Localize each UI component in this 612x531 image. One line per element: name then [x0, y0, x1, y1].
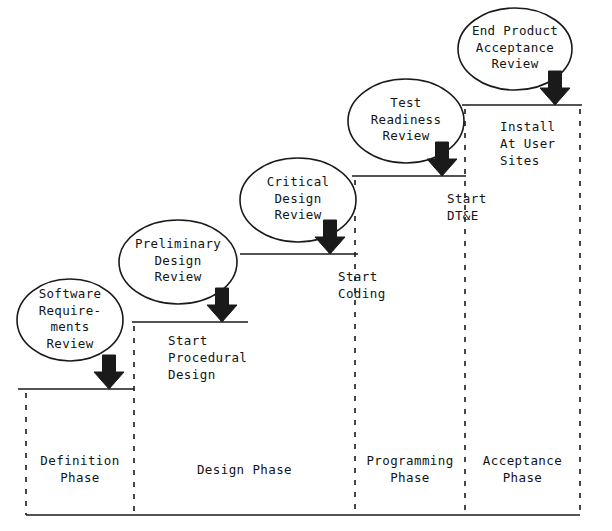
review-label-line: Review [17, 336, 123, 353]
milestone-label-line: Coding [338, 285, 386, 302]
milestone-label-install-at-user-sites: InstallAt UserSites [500, 118, 555, 169]
milestone-label-line: Start [338, 268, 386, 285]
phase-label-programming-phase: ProgrammingPhase [355, 452, 465, 486]
phase-label-definition-phase: DefinitionPhase [26, 452, 134, 486]
milestone-label-line: Design [168, 366, 247, 383]
waterfall-diagram: SoftwareRequire-mentsReviewPreliminaryDe… [0, 0, 612, 531]
phase-label-line: Phase [465, 469, 580, 486]
review-label-critical-design-review: CriticalDesignReview [240, 174, 356, 224]
phase-label-line: Acceptance [465, 452, 580, 469]
review-label-line: Readiness [348, 112, 464, 129]
review-label-line: Review [119, 269, 237, 286]
phase-label-acceptance-phase: AcceptancePhase [465, 452, 580, 486]
milestone-label-line: Start [447, 190, 487, 207]
phase-label-line: Definition [26, 452, 134, 469]
review-label-line: ments [17, 319, 123, 336]
milestone-label-line: At User [500, 135, 555, 152]
review-label-line: Design [240, 191, 356, 208]
milestone-label-start-procedural-design: StartProceduralDesign [168, 332, 247, 383]
review-label-line: Review [240, 207, 356, 224]
milestone-label-line: DT&E [447, 207, 487, 224]
review-label-line: Critical [240, 174, 356, 191]
milestone-label-line: Install [500, 118, 555, 135]
milestone-label-start-coding: StartCoding [338, 268, 386, 302]
milestone-label-start-dtande: StartDT&E [447, 190, 487, 224]
phase-label-line: Programming [355, 452, 465, 469]
phase-label-line: Phase [26, 469, 134, 486]
phase-label-line: Design Phase [134, 461, 355, 478]
phase-label-design-phase: Design Phase [134, 461, 355, 478]
review-label-line: Acceptance [458, 40, 572, 57]
review-label-test-readiness-review: TestReadinessReview [348, 95, 464, 145]
milestone-label-line: Procedural [168, 349, 247, 366]
review-label-line: Test [348, 95, 464, 112]
phase-label-line: Phase [355, 469, 465, 486]
down-arrow-step-definition [94, 355, 124, 389]
milestone-label-line: Start [168, 332, 247, 349]
milestone-label-line: Sites [500, 152, 555, 169]
review-label-line: End Product [458, 23, 572, 40]
review-label-line: Review [458, 56, 572, 73]
review-label-end-product-acceptance-review: End ProductAcceptanceReview [458, 23, 572, 73]
review-label-software-requirements-review: SoftwareRequire-mentsReview [17, 286, 123, 352]
review-label-line: Preliminary [119, 236, 237, 253]
review-label-line: Review [348, 128, 464, 145]
review-label-line: Require- [17, 303, 123, 320]
review-label-line: Design [119, 253, 237, 270]
review-label-line: Software [17, 286, 123, 303]
review-label-preliminary-design-review: PreliminaryDesignReview [119, 236, 237, 286]
